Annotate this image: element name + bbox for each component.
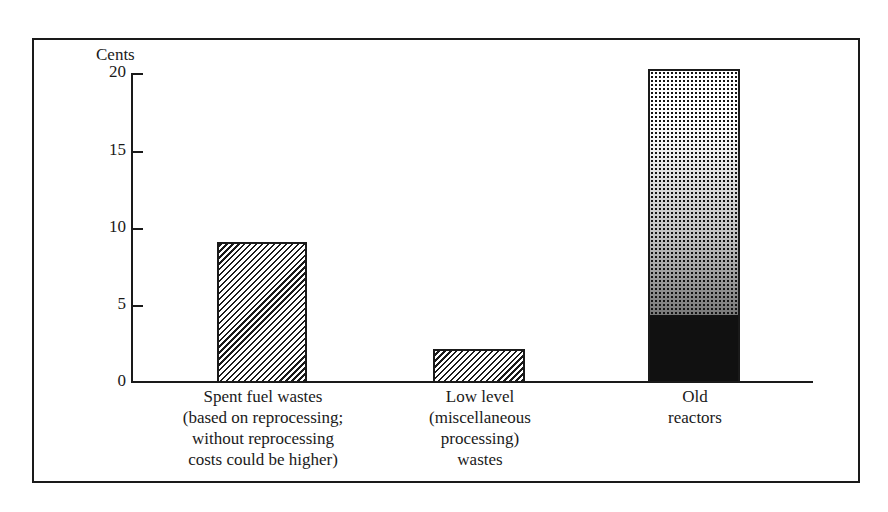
bar-spent-fuel-wastes [217, 242, 307, 383]
y-tick-label-5: 5 [98, 294, 126, 314]
y-tick-15 [131, 151, 143, 153]
y-tick-20 [131, 73, 143, 75]
y-tick-label-15: 15 [98, 140, 126, 160]
category-label-low-level: Low level (miscellaneous processing) was… [398, 386, 562, 470]
y-tick-label-10: 10 [98, 217, 126, 237]
bar-old-reactors [648, 69, 740, 383]
bar-low-level-wastes [433, 349, 525, 383]
bar-old-reactors-dark-base [650, 315, 738, 381]
y-tick-5 [131, 305, 143, 307]
y-tick-10 [131, 228, 143, 230]
category-label-old-reactors: Old reactors [634, 386, 756, 428]
y-tick-label-0: 0 [98, 371, 126, 391]
category-label-spent-fuel: Spent fuel wastes (based on reprocessing… [150, 386, 376, 470]
y-tick-label-20: 20 [98, 62, 126, 82]
